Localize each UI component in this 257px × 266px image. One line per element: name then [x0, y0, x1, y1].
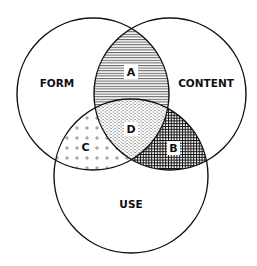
region-a-label: A [127, 66, 136, 79]
region-d-label: D [126, 123, 135, 136]
use-label: USE [119, 198, 142, 210]
venn-diagram: FORM CONTENT USE A B C D [0, 0, 257, 266]
region-b-label: B [169, 142, 177, 155]
form-label: FORM [40, 77, 75, 89]
content-label: CONTENT [178, 77, 235, 89]
region-c-label: C [81, 141, 89, 154]
